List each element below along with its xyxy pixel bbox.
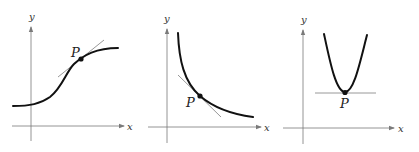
x-axis-label: x [398, 123, 404, 134]
x-axis-label: x [127, 121, 133, 132]
y-axis-label: y [300, 14, 307, 25]
tangent-lines-figure: y x P y x P y x P [0, 0, 419, 152]
point-p-marker [197, 93, 202, 98]
parabola [324, 34, 367, 92]
s-curve [13, 48, 118, 106]
panel-right: y x P [283, 14, 404, 144]
panel-middle: y x P [148, 13, 270, 143]
y-axis-label: y [28, 11, 35, 22]
point-p-label: P [185, 95, 195, 110]
point-p-label: P [339, 96, 349, 111]
point-p-label: P [70, 45, 80, 60]
x-axis-label: x [264, 122, 270, 133]
y-axis-label: y [163, 13, 170, 24]
point-p-marker [342, 90, 347, 95]
panel-left: y x P [12, 11, 133, 141]
